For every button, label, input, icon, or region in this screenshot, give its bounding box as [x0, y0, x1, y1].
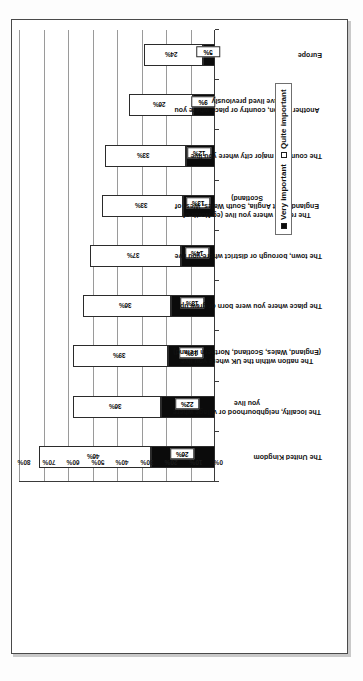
- category-label: Europe: [172, 33, 322, 77]
- legend-label-very-important: Very important: [279, 164, 288, 220]
- x-tick: [215, 230, 219, 231]
- data-label-quite-important: 37%: [124, 252, 144, 259]
- legend-item-quite-important: Quite important: [279, 89, 288, 158]
- x-tick: [215, 129, 219, 130]
- data-label-quite-important: 36%: [105, 402, 125, 409]
- y-tick-label-80%: 80%: [18, 459, 44, 466]
- category-label: The nation within the UK where you live …: [172, 334, 322, 378]
- data-label-quite-important: 39%: [109, 352, 129, 359]
- filled-square-icon: [281, 223, 287, 229]
- data-label-quite-important: 26%: [149, 101, 169, 108]
- x-tick: [215, 381, 219, 382]
- category-label: The region where you live (eg North of E…: [172, 184, 322, 228]
- y-tick-label-50%: 50%: [91, 459, 117, 466]
- y-tick-label-60%: 60%: [67, 459, 93, 466]
- category-label: The locality, neighbourhood or village w…: [172, 385, 322, 429]
- y-axis-line: [19, 481, 215, 482]
- legend-label-quite-important: Quite important: [279, 89, 288, 149]
- data-label-quite-important: 33%: [131, 202, 151, 209]
- x-tick: [215, 481, 219, 482]
- data-label-quite-important: 36%: [115, 302, 135, 309]
- y-tick-label-70%: 70%: [42, 459, 68, 466]
- category-label: The county or major city where you live: [172, 134, 322, 178]
- category-label: Another region, country or place where y…: [172, 83, 322, 127]
- category-label: The town, borough or district where you …: [172, 234, 322, 278]
- x-tick: [215, 180, 219, 181]
- y-tick-label-30%: 30%: [140, 459, 166, 466]
- empty-square-icon: [281, 152, 287, 158]
- x-tick: [215, 79, 219, 80]
- chart-canvas: 26%46%22%36%19%39%18%36%14%37%13%33%12%3…: [11, 19, 348, 654]
- y-tick-label-40%: 40%: [116, 459, 142, 466]
- category-label: The place where you were born or grew up: [172, 284, 322, 328]
- chart-legend: Very important Quite important: [275, 83, 292, 235]
- data-label-quite-important: 33%: [133, 151, 153, 158]
- category-label: The United Kingdom: [172, 435, 322, 479]
- rotated-chart-wrapper: 26%46%22%36%19%39%18%36%14%37%13%33%12%3…: [11, 19, 348, 654]
- chart-page: 26%46%22%36%19%39%18%36%14%37%13%33%12%3…: [0, 0, 363, 681]
- x-tick: [215, 280, 219, 281]
- x-tick: [215, 330, 219, 331]
- x-tick: [215, 29, 219, 30]
- x-tick: [215, 431, 219, 432]
- legend-item-very-important: Very important: [279, 164, 288, 229]
